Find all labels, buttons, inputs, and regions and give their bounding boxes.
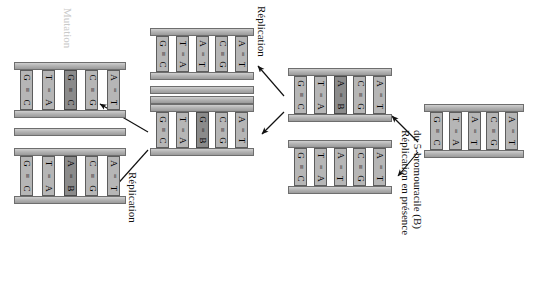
base-pair: C≡G: [215, 36, 228, 72]
hydrogen-bond-icon: ≡: [218, 128, 226, 133]
label-mutation: Mutation: [62, 8, 74, 48]
base-letter-bottom: A: [178, 137, 187, 144]
base-letter-bottom: T: [109, 100, 118, 106]
hydrogen-bond-icon: ≡: [23, 174, 31, 179]
hydrogen-bond-icon: ≡: [88, 174, 96, 179]
base-letter-top: G: [158, 40, 167, 47]
hydrogen-bond-icon: =: [508, 129, 516, 134]
hydrogen-bond-icon: =: [44, 88, 52, 93]
base-pair: T=A: [314, 148, 327, 186]
dna-duplex-duplex-AB: G≡CT=AA=BC≡GA=T: [14, 148, 126, 204]
base-letter-top: T: [451, 117, 460, 123]
hydrogen-bond-icon: =: [66, 174, 74, 179]
base-letter-bottom: A: [451, 139, 460, 146]
base-pair: T=A: [176, 36, 189, 72]
label-replication-bu-l2: du 5-bromouracile (B): [412, 130, 424, 229]
base-letter-top: A: [198, 40, 207, 47]
hydrogen-bond-icon: =: [470, 129, 478, 134]
base-letter-top: C: [217, 40, 226, 46]
base-letter-top: G: [296, 80, 305, 87]
hydrogen-bond-icon: =: [316, 93, 324, 98]
base-letter-bottom: G: [87, 185, 96, 192]
base-pair: G≡C: [294, 76, 307, 114]
hydrogen-bond-icon: =: [178, 52, 186, 57]
base-letter-top: C: [217, 116, 226, 122]
base-letter-top: C: [488, 116, 497, 122]
base-letter-bottom: C: [65, 99, 74, 105]
arrow-replication-mid-bottom: [262, 112, 284, 134]
base-letter-bottom: G: [217, 137, 226, 144]
base-pair: A=T: [235, 36, 248, 72]
base-pair: T=A: [42, 156, 55, 196]
base-letter-bottom: C: [296, 103, 305, 109]
base-letter-bottom: C: [158, 61, 167, 67]
base-letter-bottom: A: [316, 175, 325, 182]
hydrogen-bond-icon: ≡: [88, 88, 96, 93]
base-letter-bottom: C: [432, 139, 441, 145]
base-pair: A=B: [64, 156, 77, 196]
hydrogen-bond-icon: =: [238, 52, 246, 57]
hydrogen-bond-icon: =: [336, 165, 344, 170]
base-letter-top: A: [109, 74, 118, 81]
dna-single-strand-free-strand-upper: [14, 128, 126, 136]
dna-single-strand-free-strand-mid-a: [150, 86, 254, 94]
base-pair: G=B: [196, 112, 209, 148]
base-pair: C≡G: [486, 112, 499, 150]
dna-backbone-bottom: [150, 148, 254, 156]
hydrogen-bond-icon: =: [110, 88, 118, 93]
base-pair: C≡G: [353, 148, 366, 186]
base-letter-top: T: [44, 75, 53, 81]
base-pair: A=T: [468, 112, 481, 150]
dna-backbone-top: [150, 28, 254, 36]
base-letter-bottom: C: [22, 99, 31, 105]
base-pair: C≡G: [215, 112, 228, 148]
base-letter-top: T: [316, 153, 325, 159]
base-pair: C≡G: [85, 70, 98, 110]
hydrogen-bond-icon: =: [198, 128, 206, 133]
base-letter-bottom: B: [335, 103, 344, 109]
base-pair: G≡C: [20, 156, 33, 196]
base-pair: A=T: [505, 112, 518, 150]
dna-duplex-duplex-AB-right: G≡CT=AA=BC≡GA=T: [288, 68, 392, 122]
base-letter-bottom: G: [355, 175, 364, 182]
base-pair-row: G≡CT=AA=BC≡GA=T: [294, 76, 386, 114]
base-pair: A=T: [107, 156, 120, 196]
base-letter-top: C: [355, 152, 364, 158]
dna-backbone: [150, 86, 254, 94]
base-letter-top: C: [355, 80, 364, 86]
hydrogen-bond-icon: =: [376, 165, 384, 170]
base-pair: A=T: [235, 112, 248, 148]
base-pair: A=T: [107, 70, 120, 110]
base-letter-top: G: [432, 116, 441, 123]
hydrogen-bond-icon: ≡: [433, 129, 441, 134]
dna-backbone: [14, 128, 126, 136]
base-letter-bottom: T: [507, 140, 516, 146]
base-letter-bottom: C: [158, 137, 167, 143]
hydrogen-bond-icon: ≡: [159, 128, 167, 133]
base-letter-top: A: [237, 40, 246, 47]
base-letter-top: T: [178, 117, 187, 123]
base-letter-bottom: B: [197, 137, 206, 143]
base-letter-top: A: [470, 116, 479, 123]
base-pair: T=A: [314, 76, 327, 114]
base-pair: A=B: [334, 76, 347, 114]
hydrogen-bond-icon: =: [451, 129, 459, 134]
base-letter-top: A: [336, 152, 345, 159]
arrow-replication-mid-top: [258, 66, 284, 96]
base-letter-top: A: [336, 80, 345, 87]
label-replication-bottom: Réplication: [127, 172, 139, 223]
hydrogen-bond-icon: ≡: [356, 165, 364, 170]
base-letter-bottom: T: [470, 140, 479, 146]
base-pair: A=T: [334, 148, 347, 186]
dna-single-strand-free-strand-mid-b: [150, 96, 254, 104]
base-pair: G≡C: [156, 36, 169, 72]
base-letter-top: A: [375, 152, 384, 159]
base-letter-bottom: B: [65, 185, 74, 191]
base-pair: G≡C: [64, 70, 77, 110]
hydrogen-bond-icon: ≡: [489, 129, 497, 134]
dna-duplex-mutant-duplex-GC: G≡CT=AG≡CC≡GA=T: [14, 62, 126, 118]
base-pair: T=A: [449, 112, 462, 150]
hydrogen-bond-icon: ≡: [66, 88, 74, 93]
base-letter-top: A: [375, 80, 384, 87]
base-letter-top: C: [87, 160, 96, 166]
